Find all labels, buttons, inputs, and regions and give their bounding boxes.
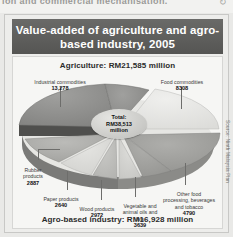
label-food-commodities: Food commodities 8308 (153, 73, 211, 98)
label-rubber-value: 2887 (15, 180, 51, 186)
leader-line-veg (135, 177, 136, 197)
label-industrial-commodities: Industrial commodities 13,278 (31, 73, 89, 98)
label-industrial-name: Industrial commodities (34, 79, 86, 85)
figure-card: Value-added of agriculture and agro-base… (4, 14, 229, 233)
label-food-name: Food commodities (161, 79, 203, 85)
top-strip-text: ion and commercial mechanisation. (2, 0, 168, 6)
chart-plate: Agriculture: RM21,585 million (12, 56, 223, 229)
label-paper-name: Paper products (43, 196, 78, 202)
leader-line-wood (101, 180, 102, 200)
label-industrial-value: 13,278 (31, 85, 89, 91)
figure-page: ion and commercial mechanisation. ↻ Valu… (0, 0, 233, 237)
label-other-name: Other food processing, beverages and tob… (163, 191, 215, 209)
label-wood-name: Wood products (80, 206, 115, 212)
source-credit-text: Source: Ninth Malaysia Plan (225, 120, 230, 183)
total-bubble: Total: RM38,513 million (91, 109, 147, 139)
source-credit: Source: Ninth Malaysia Plan (224, 118, 233, 228)
agro-based-caption: Agro-based industry: RM16,928 million (13, 215, 222, 224)
leader-line-rubber-h (38, 149, 60, 150)
label-food-value: 8308 (153, 85, 211, 91)
page-top-strip: ion and commercial mechanisation. ↻ (0, 0, 233, 13)
page-title: Value-added of agriculture and agro-base… (12, 23, 223, 51)
leader-line-paper (67, 171, 68, 190)
figure-header: Value-added of agriculture and agro-base… (12, 19, 223, 54)
leader-line-rubber-v (38, 149, 39, 160)
label-rubber-products: Rubber products 2887 (15, 161, 51, 192)
total-label: Total: RM38,513 million (106, 114, 132, 134)
leader-line-other (185, 163, 186, 185)
label-rubber-name: Rubber products (23, 167, 43, 179)
refresh-icon: ↻ (219, 0, 227, 7)
